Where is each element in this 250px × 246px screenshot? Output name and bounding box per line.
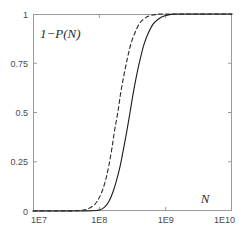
y-tick-label: 0 bbox=[23, 207, 28, 217]
x-tick-label: 1E9 bbox=[158, 215, 174, 225]
x-tick-label: 1E8 bbox=[91, 215, 107, 225]
y-tick-label: 0.75 bbox=[10, 59, 28, 69]
y-tick-label: 0.25 bbox=[10, 157, 28, 167]
x-axis-label: N bbox=[200, 191, 211, 206]
sigmoid-plot: 1E71E81E91E10 00.250.50.751 1−P(N) N bbox=[0, 0, 250, 246]
figure-background bbox=[0, 0, 250, 246]
y-tick-label: 1 bbox=[23, 10, 28, 20]
y-axis-label: 1−P(N) bbox=[40, 26, 81, 41]
x-tick-label: 1E7 bbox=[31, 215, 47, 225]
chart-figure: 1E71E81E91E10 00.250.50.751 1−P(N) N bbox=[0, 0, 250, 246]
x-tick-label: 1E10 bbox=[214, 215, 235, 225]
y-tick-label: 0.5 bbox=[15, 108, 28, 118]
